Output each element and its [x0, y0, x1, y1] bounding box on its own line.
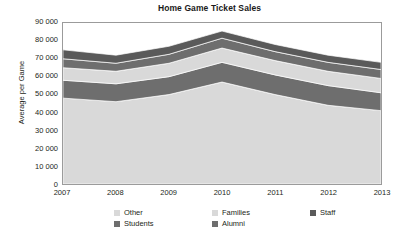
legend-item-staff[interactable]: Staff [310, 209, 335, 217]
y-tick-label: 50 000 [4, 89, 58, 98]
legend-item-other[interactable]: Other [114, 209, 143, 217]
chart-legend: OtherFamiliesStaffStudentsAlumni [62, 209, 382, 237]
y-tick-label: 80 000 [4, 35, 58, 44]
legend-label: Other [124, 209, 143, 217]
plot-svg [63, 23, 381, 184]
stacked-area-chart: Home Game Ticket Sales Average per Game … [0, 0, 419, 243]
y-tick-label: 70 000 [4, 53, 58, 62]
legend-swatch-icon [114, 221, 120, 227]
legend-item-students[interactable]: Students [114, 220, 154, 228]
x-axis-tick-labels: 2007200820092010201120122013 [62, 188, 382, 202]
x-tick-label: 2008 [107, 188, 124, 197]
y-tick-label: 60 000 [4, 71, 58, 80]
y-tick-label: 40 000 [4, 108, 58, 117]
legend-item-alumni[interactable]: Alumni [212, 220, 245, 228]
legend-swatch-icon [114, 210, 120, 216]
plot-area [62, 22, 382, 185]
legend-item-families[interactable]: Families [212, 209, 250, 217]
x-tick-label: 2012 [320, 188, 337, 197]
y-axis-tick-labels: 010 00020 00030 00040 00050 00060 00070 … [0, 0, 58, 243]
legend-label: Families [222, 209, 250, 217]
x-tick-label: 2013 [374, 188, 391, 197]
y-tick-label: 0 [4, 180, 58, 189]
legend-label: Staff [320, 209, 335, 217]
y-tick-label: 30 000 [4, 126, 58, 135]
legend-swatch-icon [212, 210, 218, 216]
chart-title: Home Game Ticket Sales [0, 3, 419, 13]
legend-swatch-icon [212, 221, 218, 227]
x-tick-label: 2009 [160, 188, 177, 197]
legend-swatch-icon [310, 210, 316, 216]
y-tick-label: 90 000 [4, 17, 58, 26]
x-tick-label: 2010 [214, 188, 231, 197]
legend-label: Students [124, 220, 154, 228]
legend-label: Alumni [222, 220, 245, 228]
x-tick-label: 2007 [54, 188, 71, 197]
y-tick-label: 20 000 [4, 144, 58, 153]
y-tick-label: 10 000 [4, 162, 58, 171]
x-tick-label: 2011 [267, 188, 283, 197]
